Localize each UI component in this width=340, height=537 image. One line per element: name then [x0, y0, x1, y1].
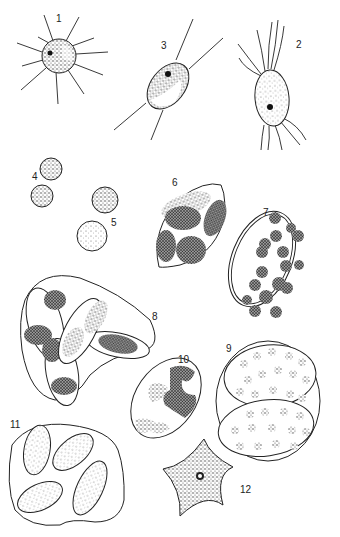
figure-11-drawing	[9, 423, 124, 525]
figure-label-5: 5	[111, 218, 117, 228]
figure-label-7: 7	[263, 208, 269, 218]
figure-7-drawing	[215, 201, 308, 318]
figure-9-drawing	[215, 341, 320, 462]
figure-6-drawing	[156, 184, 231, 267]
figure-3-drawing	[114, 19, 223, 140]
figure-label-11: 11	[10, 420, 20, 430]
figure-label-12: 12	[240, 485, 251, 495]
figure-label-2: 2	[296, 40, 302, 50]
illustration-plate: 1 2 3 4 5 6 7 8 9 10 11 12	[0, 0, 340, 537]
figure-label-8: 8	[152, 312, 158, 322]
figure-label-3: 3	[161, 41, 167, 51]
figure-8-drawing	[19, 276, 155, 409]
figure-label-1: 1	[56, 14, 62, 24]
figure-10-drawing	[116, 345, 216, 451]
figure-1-drawing	[17, 15, 108, 104]
plate-drawing	[0, 0, 340, 537]
figure-4-drawing	[31, 158, 62, 207]
figure-label-10: 10	[178, 355, 189, 365]
figure-label-4: 4	[32, 172, 38, 182]
figure-label-9: 9	[226, 344, 232, 354]
figure-12-drawing	[163, 439, 233, 516]
figure-label-6: 6	[172, 178, 178, 188]
